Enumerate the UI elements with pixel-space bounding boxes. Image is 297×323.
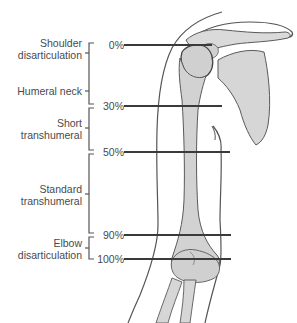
label-line: Shoulder bbox=[18, 37, 82, 49]
radius bbox=[156, 278, 182, 323]
label-humeral-neck: Humeral neck bbox=[17, 85, 82, 97]
bracket-standard bbox=[89, 154, 94, 233]
amputation-levels-diagram: Shoulder disarticulation Humeral neck Sh… bbox=[0, 0, 297, 323]
label-short-transhumeral: Short transhumeral bbox=[21, 117, 82, 141]
label-shoulder-disarticulation: Shoulder disarticulation bbox=[18, 37, 82, 61]
label-elbow-disarticulation: Elbow disarticulation bbox=[18, 237, 82, 261]
label-line: Elbow bbox=[18, 237, 82, 249]
label-line: transhumeral bbox=[21, 195, 82, 207]
label-line: Standard bbox=[21, 183, 82, 195]
percent-label-100: 100% bbox=[97, 253, 124, 265]
bracket-group bbox=[85, 43, 94, 259]
percent-label-90: 90% bbox=[103, 229, 124, 241]
percent-label-0: 0% bbox=[109, 39, 124, 51]
label-line: Humeral neck bbox=[17, 85, 82, 97]
ulna bbox=[180, 280, 196, 323]
bracket-short bbox=[89, 108, 94, 150]
skin-outline-inner bbox=[205, 126, 221, 323]
percent-label-30: 30% bbox=[103, 100, 124, 112]
label-line: disarticulation bbox=[18, 249, 82, 261]
label-standard-transhumeral: Standard transhumeral bbox=[21, 183, 82, 207]
bracket-elbow bbox=[89, 237, 94, 259]
label-line: disarticulation bbox=[18, 49, 82, 61]
humerus-shaft bbox=[171, 58, 219, 277]
label-line: transhumeral bbox=[21, 129, 82, 141]
bracket-proximal bbox=[89, 43, 94, 104]
percent-label-50: 50% bbox=[103, 146, 124, 158]
scapula bbox=[218, 50, 270, 145]
label-line: Short bbox=[21, 117, 82, 129]
